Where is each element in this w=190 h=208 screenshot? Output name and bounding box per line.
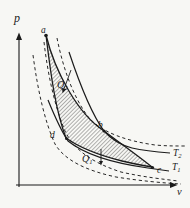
volume-axis-label: v: [177, 186, 182, 197]
point-b-dot: [103, 130, 106, 133]
point-a-label: a: [41, 25, 46, 35]
point-d-dot: [65, 137, 68, 140]
pv-diagram-canvas: p v a b c d Q2 Q1 T2 T1: [0, 0, 190, 208]
point-c-dot: [151, 166, 154, 169]
point-b-label: b: [98, 120, 103, 130]
pv-diagram-figure: p v a b c d Q2 Q1 T2 T1: [0, 0, 190, 208]
point-d-label: d: [50, 130, 55, 140]
figure-background: [0, 0, 190, 208]
pressure-axis-label: p: [13, 11, 20, 25]
